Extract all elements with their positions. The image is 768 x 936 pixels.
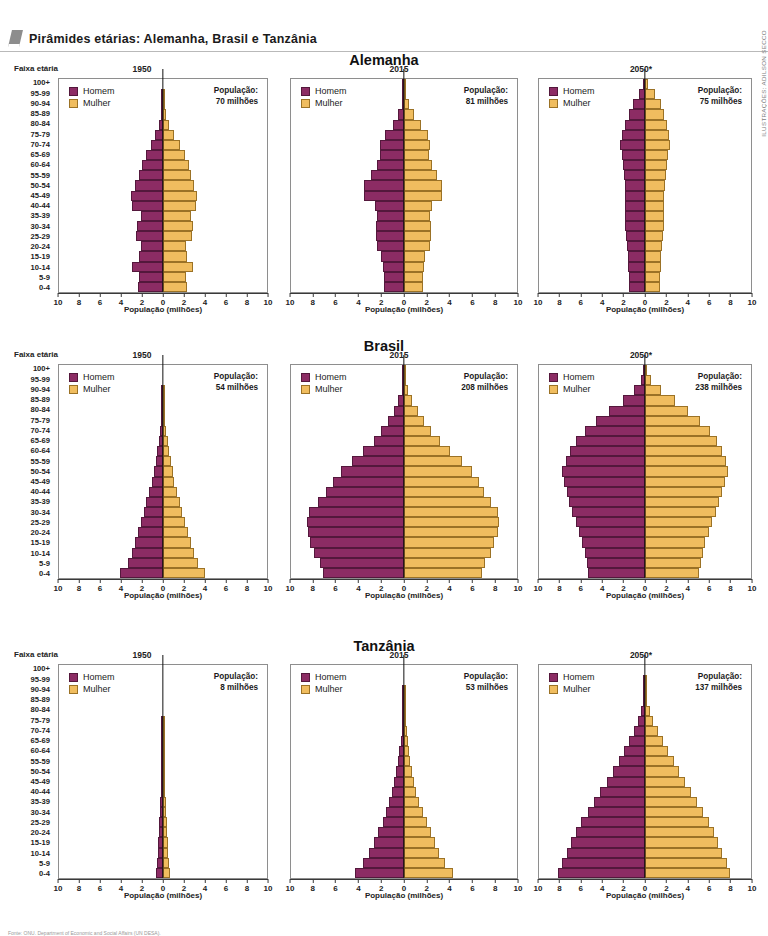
- y-tick-label: 85-89: [8, 109, 54, 119]
- x-tick-mark: [472, 293, 473, 297]
- x-tick-mark: [580, 579, 581, 583]
- bar-male: [326, 487, 404, 497]
- x-tick-mark: [162, 579, 163, 583]
- bar-male: [369, 848, 404, 858]
- bar-male: [567, 848, 645, 858]
- y-tick-label: 15-19: [8, 252, 54, 262]
- y-tick-label: 0-4: [8, 283, 54, 293]
- bar-female: [645, 170, 666, 180]
- center-axis-line: [162, 355, 163, 578]
- y-tick-label: 65-69: [8, 436, 54, 446]
- bar-male: [624, 170, 645, 180]
- legend: HomemMulher: [549, 672, 595, 696]
- y-tick-label: 60-64: [8, 160, 54, 170]
- y-tick-label: 75-79: [8, 415, 54, 425]
- bar-female: [163, 456, 171, 466]
- x-tick-mark: [538, 579, 539, 583]
- bar-male: [571, 837, 645, 847]
- chart-year-tanzania-1950: 1950: [8, 650, 276, 660]
- y-tick-label: 10-14: [8, 548, 54, 558]
- bar-female: [404, 191, 442, 201]
- y-tick-label: 75-79: [8, 715, 54, 725]
- legend-item-male: Homem: [69, 86, 115, 96]
- bar-male: [625, 201, 645, 211]
- bar-male: [570, 446, 645, 456]
- x-tick-mark: [99, 293, 100, 297]
- bar-female: [645, 140, 670, 150]
- bar-female: [645, 180, 665, 190]
- bar-male: [585, 548, 645, 558]
- population-note-value: 208 milhões: [461, 382, 508, 393]
- population-note-value: 8 milhões: [214, 682, 258, 693]
- pyramid-panel-brasil-2050: 2050*HomemMulherPopulação:238 milhões108…: [520, 352, 762, 614]
- bar-male: [385, 130, 404, 140]
- legend-label-female: Mulher: [83, 384, 111, 394]
- bar-male: [562, 858, 645, 868]
- x-tick-mark: [449, 879, 450, 883]
- bar-female: [163, 487, 177, 497]
- legend-label-female: Mulher: [315, 98, 343, 108]
- bar-male: [609, 406, 645, 416]
- bar-female: [645, 558, 701, 568]
- x-axis-tanzania-2050: 1086420246810População (milhões): [538, 879, 752, 901]
- plot-area-brasil-2050: HomemMulherPopulação:238 milhões: [538, 364, 752, 579]
- bar-female: [404, 537, 494, 547]
- legend-label-female: Mulher: [563, 384, 591, 394]
- bar-female: [645, 487, 722, 497]
- legend-swatch-male: [69, 373, 78, 382]
- x-tick-mark: [78, 879, 79, 883]
- bar-female: [404, 241, 430, 251]
- bar-female: [404, 797, 419, 807]
- population-note-label: População:: [214, 371, 258, 382]
- x-tick-mark: [120, 879, 121, 883]
- legend: HomemMulher: [549, 372, 595, 396]
- chart-year-alemanha-2015: 2015: [272, 64, 526, 74]
- legend-label-male: Homem: [83, 672, 115, 682]
- bar-female: [163, 446, 169, 456]
- legend-item-male: Homem: [301, 672, 347, 682]
- bar-female: [645, 436, 717, 446]
- bar-female: [404, 548, 491, 558]
- y-tick-label: 95-99: [8, 674, 54, 684]
- y-tick-label: 60-64: [8, 746, 54, 756]
- bar-male: [627, 241, 645, 251]
- y-tick-label: 50-54: [8, 766, 54, 776]
- x-axis-title: População (milhões): [58, 591, 268, 600]
- plot-area-tanzania-2050: HomemMulherPopulação:137 milhões: [538, 664, 752, 879]
- center-axis-line: [644, 655, 645, 878]
- x-tick-mark: [666, 293, 667, 297]
- legend-label-male: Homem: [83, 372, 115, 382]
- bar-female: [404, 477, 479, 487]
- bar-male: [629, 736, 645, 746]
- bar-female: [645, 109, 664, 119]
- bar-female: [404, 109, 414, 119]
- bar-male: [139, 170, 163, 180]
- y-tick-label: 20-24: [8, 528, 54, 538]
- bar-female: [404, 140, 430, 150]
- bar-male: [138, 282, 163, 292]
- x-tick-mark: [183, 579, 184, 583]
- bar-male: [613, 766, 645, 776]
- bar-female: [163, 282, 187, 292]
- bar-female: [404, 231, 431, 241]
- bar-female: [645, 201, 664, 211]
- legend-label-male: Homem: [83, 86, 115, 96]
- legend-label-male: Homem: [563, 672, 595, 682]
- x-tick-mark: [426, 293, 427, 297]
- pyramid-panel-tanzania-2050: 2050*HomemMulherPopulação:137 milhões108…: [520, 652, 762, 914]
- page-title-bar: Pirâmides etárias: Alemanha, Brasil e Ta…: [0, 26, 768, 52]
- legend-label-female: Mulher: [83, 98, 111, 108]
- bar-male: [120, 568, 163, 578]
- bar-male: [625, 211, 645, 221]
- population-note-label: População:: [695, 371, 742, 382]
- bar-female: [645, 150, 668, 160]
- bar-male: [141, 517, 163, 527]
- x-tick-mark: [358, 293, 359, 297]
- x-tick-mark: [204, 879, 205, 883]
- x-tick-mark: [495, 879, 496, 883]
- x-tick-mark: [162, 293, 163, 297]
- legend-swatch-female: [301, 385, 310, 394]
- bar-female: [404, 487, 484, 497]
- x-tick-mark: [78, 579, 79, 583]
- x-tick-mark: [687, 293, 688, 297]
